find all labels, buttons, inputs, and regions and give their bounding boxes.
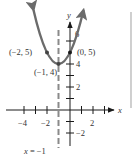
parabola-graph: x −4 −2 2 y 6 4 2 −2 x = −1 (−2, 5) (−1,… [0, 0, 137, 165]
y-axis: y 6 4 2 −2 [66, 10, 85, 146]
x-tick-label-neg4: −4 [18, 118, 28, 128]
x-axis: x −4 −2 2 [6, 105, 122, 128]
y-tick-label-neg2: −2 [76, 128, 85, 138]
axis-of-symmetry-label: x = −1 [23, 146, 46, 156]
y-axis-label: y [66, 10, 71, 20]
point-0-5 [68, 51, 72, 55]
point-neg2-5 [45, 51, 49, 55]
x-tick-label-2: 2 [90, 118, 94, 128]
point-vertex [57, 62, 61, 66]
x-axis-label: x [117, 105, 122, 115]
x-tick-label-neg2: −2 [41, 118, 50, 128]
y-tick-label-2: 2 [76, 82, 80, 92]
point-label-vertex: (−1, 4) [34, 67, 57, 77]
parabola-curve [34, 10, 84, 64]
point-label-neg2-5: (−2, 5) [9, 47, 32, 57]
y-tick-label-4: 4 [76, 59, 81, 69]
point-label-0-5: (0, 5) [77, 47, 96, 57]
